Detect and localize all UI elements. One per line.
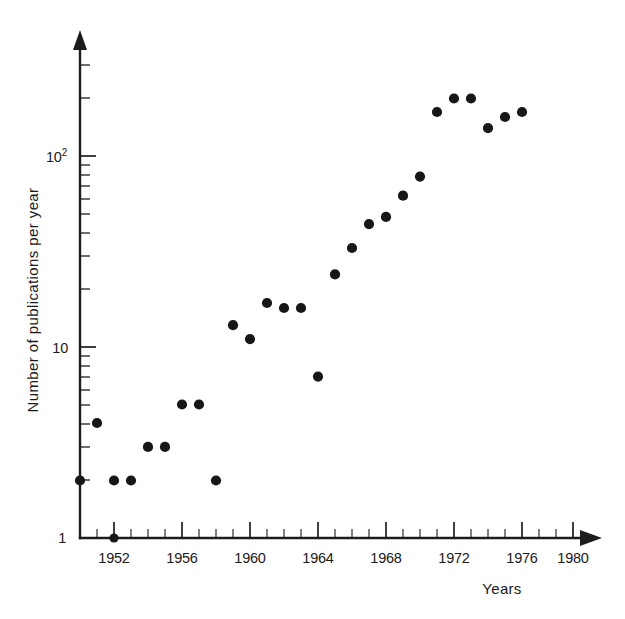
data-point: [466, 93, 476, 103]
x-axis-title: Years: [482, 580, 521, 597]
data-point: [245, 334, 255, 344]
data-point: [296, 303, 306, 313]
x-tick-label-group: 1952 1956 1960 1964 1968 1972 1976 1980: [98, 550, 589, 566]
data-point: [109, 475, 119, 485]
data-point: [517, 107, 527, 117]
data-point: [347, 243, 357, 253]
x-tick-label: 1980: [557, 550, 589, 566]
y-tick-label-10: 10: [52, 340, 68, 356]
data-point: [160, 442, 170, 452]
data-point: [449, 93, 459, 103]
x-tick-label: 1952: [98, 550, 130, 566]
x-tick-label: 1976: [506, 550, 538, 566]
data-point: [262, 298, 272, 308]
data-point: [92, 418, 102, 428]
chart-canvas: 1 10 102 1952 1956 1960 1964 1968 1972 1…: [0, 0, 625, 619]
data-point: [126, 475, 136, 485]
data-point: [415, 172, 425, 182]
x-axis-ticks: [97, 522, 573, 538]
data-point: [398, 191, 408, 201]
data-point: [500, 112, 510, 122]
y-tick-label-100: 102: [46, 147, 68, 165]
data-point: [381, 212, 391, 222]
data-point: [75, 475, 85, 485]
y-axis-title: Number of publications per year: [24, 187, 41, 412]
x-tick-label: 1968: [370, 550, 402, 566]
data-point: [228, 320, 238, 330]
data-point: [194, 399, 204, 409]
origin-axis-marker: [109, 533, 118, 542]
y-tick-100-exponent: 2: [62, 147, 68, 158]
y-tick-100-mantissa: 10: [46, 149, 62, 165]
x-tick-label: 1964: [302, 550, 334, 566]
y-tick-label-1: 1: [58, 530, 66, 546]
x-tick-label: 1960: [234, 550, 266, 566]
data-point: [432, 107, 442, 117]
x-tick-label: 1972: [438, 550, 470, 566]
data-point: [364, 219, 374, 229]
data-point: [143, 442, 153, 452]
data-point: [211, 475, 221, 485]
chart-figure: 1 10 102 1952 1956 1960 1964 1968 1972 1…: [0, 0, 625, 619]
y-axis-arrow-icon: [73, 30, 87, 50]
data-point: [279, 303, 289, 313]
data-point: [483, 123, 493, 133]
data-point: [313, 372, 323, 382]
y-axis-ticks: [80, 65, 96, 538]
data-point: [330, 269, 340, 279]
x-axis-arrow-icon: [580, 530, 602, 546]
x-tick-label: 1956: [166, 550, 198, 566]
data-point-group: [75, 93, 527, 485]
data-point: [177, 399, 187, 409]
